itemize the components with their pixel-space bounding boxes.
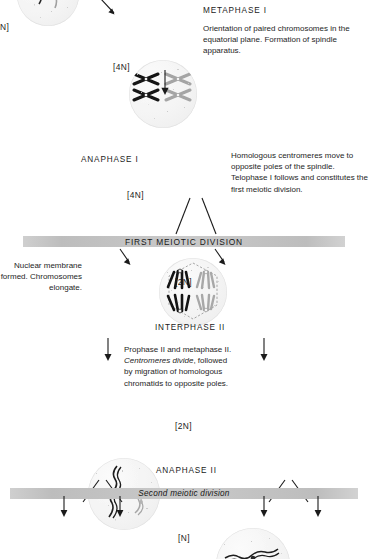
arrow-metaphase-1-to-anaphase-1: [157, 70, 173, 98]
arrow-to-gamete-3: [256, 496, 272, 520]
chromosome-dark-1: [134, 74, 158, 84]
ploidy-label-interphase-2: [2N]: [175, 277, 192, 287]
chromosome-dark-elongated: [225, 549, 279, 559]
cell-interphase-2-right: [216, 528, 290, 559]
arrow-to-gamete-1: [56, 496, 72, 520]
arrow-to-gamete-4: [310, 496, 326, 520]
chromosome-dark-2: [134, 90, 158, 100]
heading-anaphase-1: ANAPHASE I: [81, 155, 139, 164]
heading-metaphase-1: METAPHASE I: [203, 6, 267, 15]
arrow-to-gamete-2: [112, 496, 128, 520]
ploidy-label-top-partial: N]: [0, 22, 9, 32]
arrow-interphase-to-anaphase-2-left: [100, 338, 116, 364]
description-anaphase-1: Homologous centromeres move to opposite …: [231, 150, 369, 195]
description-metaphase-1: Orientation of paired chromosomes in the…: [203, 23, 365, 57]
second-meiotic-division-label: Second meiotic division: [138, 489, 229, 498]
prophase-2-line-2-italic: Centromeres divide: [124, 356, 193, 365]
ploidy-label-anaphase-2: [2N]: [175, 421, 192, 431]
heading-anaphase-2: ANAPHASE II: [156, 466, 217, 475]
meiosis-diagram: N] METAPHASE I: [0, 0, 369, 559]
prophase-2-line-4: chromatids to opposite poles.: [124, 379, 228, 388]
ploidy-label-anaphase-1: [4N]: [127, 190, 144, 200]
arrow-band-to-interphase-left: [115, 248, 137, 270]
note-interphase-2: Nuclear membrane formed. Chromosomes elo…: [0, 260, 82, 294]
chromatid-fan-dark-lower: [168, 295, 189, 313]
arrow-band-to-interphase-right: [211, 248, 233, 270]
prophase-2-line-1: Prophase II and metaphase II.: [124, 345, 231, 354]
chromatid-fan-light-lower: [197, 295, 214, 312]
prophase-2-line-3: by migration of homologous: [124, 367, 222, 376]
chromosomes-interphase-2-right: [216, 528, 290, 559]
ploidy-label-metaphase-1: [4N]: [113, 62, 130, 72]
ploidy-label-gametes: [N]: [178, 533, 190, 543]
lines-anaphase-1-to-band: [150, 196, 240, 236]
chromatid-fan-light-upper: [197, 270, 214, 288]
first-meiotic-division-band: FIRST MEIOTIC DIVISION: [23, 236, 345, 247]
description-prophase-metaphase-2: Prophase II and metaphase II. Centromere…: [124, 344, 274, 389]
cell-prophase-1-partial: [17, 0, 79, 26]
heading-interphase-2: INTERPHASE II: [155, 323, 225, 332]
chromosomes-partial: [17, 0, 79, 26]
arrow-from-prophase-1: [96, 0, 122, 22]
prophase-2-line-2-rest: , followed: [193, 356, 227, 365]
first-meiotic-division-label: FIRST MEIOTIC DIVISION: [125, 237, 243, 247]
